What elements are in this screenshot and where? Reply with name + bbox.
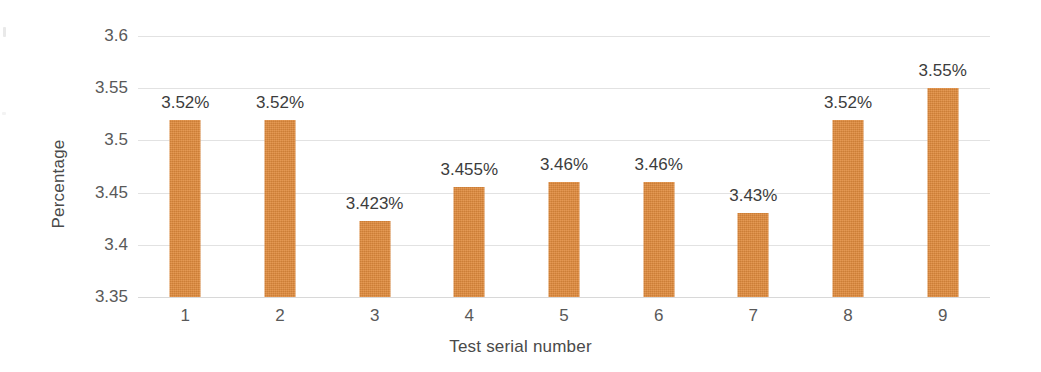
bar-value-label: 3.52% (824, 93, 872, 113)
y-axis-tick-label: 3.5 (70, 130, 128, 150)
chart-screenshot: Percentage 3.52%3.52%3.423%3.455%3.46%3.… (0, 0, 1041, 372)
bar[interactable] (927, 88, 958, 297)
y-axis-tick-label: 3.4 (70, 235, 128, 255)
bar[interactable] (832, 120, 863, 297)
x-axis-tick-label: 4 (429, 306, 509, 326)
bar[interactable] (264, 120, 295, 297)
scan-artifact (2, 112, 6, 115)
bar[interactable] (359, 221, 390, 297)
bar[interactable] (548, 182, 579, 297)
bar-group[interactable]: 3.423% (327, 36, 422, 297)
bar-group[interactable]: 3.455% (422, 36, 517, 297)
bar-group[interactable]: 3.55% (895, 36, 990, 297)
gridline (138, 297, 990, 298)
bar[interactable] (643, 182, 674, 297)
y-axis-tick-label: 3.55 (70, 78, 128, 98)
plot-area: 3.52%3.52%3.423%3.455%3.46%3.46%3.43%3.5… (138, 36, 990, 297)
bar[interactable] (738, 213, 769, 297)
bar-group[interactable]: 3.52% (233, 36, 328, 297)
x-axis-tick-label: 8 (808, 306, 888, 326)
y-axis-tick-label: 3.45 (70, 183, 128, 203)
x-axis-tick-label: 6 (619, 306, 699, 326)
bar-value-label: 3.52% (161, 93, 209, 113)
bar-value-label: 3.455% (440, 160, 498, 180)
x-axis-tick-label: 3 (335, 306, 415, 326)
x-axis-tick-label: 1 (145, 306, 225, 326)
bar-group[interactable]: 3.52% (801, 36, 896, 297)
x-axis-tick-label: 7 (713, 306, 793, 326)
bar-value-label: 3.43% (729, 186, 777, 206)
bar[interactable] (454, 187, 485, 297)
bar-value-label: 3.46% (540, 155, 588, 175)
bar-group[interactable]: 3.43% (706, 36, 801, 297)
y-axis-tick-label: 3.35 (70, 287, 128, 307)
bar-group[interactable]: 3.46% (611, 36, 706, 297)
bar-group[interactable]: 3.46% (517, 36, 612, 297)
x-axis-tick-label: 5 (524, 306, 604, 326)
bar-value-label: 3.52% (256, 93, 304, 113)
bar-value-label: 3.423% (346, 194, 404, 214)
bar-value-label: 3.46% (635, 155, 683, 175)
x-axis-title: Test serial number (0, 337, 1041, 357)
bars: 3.52%3.52%3.423%3.455%3.46%3.46%3.43%3.5… (138, 36, 990, 297)
y-axis-tick-label: 3.6 (70, 26, 128, 46)
x-axis-tick-label: 2 (240, 306, 320, 326)
bar[interactable] (170, 120, 201, 297)
x-axis-tick-label: 9 (903, 306, 983, 326)
bar-value-label: 3.55% (919, 61, 967, 81)
bar-group[interactable]: 3.52% (138, 36, 233, 297)
scan-artifact (3, 27, 6, 37)
